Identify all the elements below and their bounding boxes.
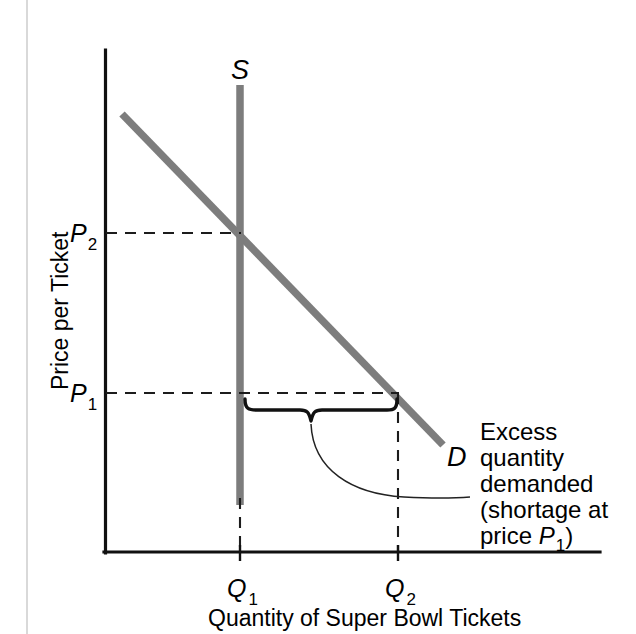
annotation-line-3: demanded <box>480 470 593 497</box>
y-axis-title: Price per Ticket <box>47 231 73 390</box>
supply-curve-label: S <box>231 55 249 85</box>
q2-axis-label: Q2 <box>385 574 416 609</box>
annotation-line-5: price P1) <box>480 522 573 555</box>
p2-axis-label: P2 <box>70 219 97 254</box>
x-axis-title: Quantity of Super Bowl Tickets <box>208 605 521 631</box>
demand-curve <box>122 114 443 445</box>
supply-demand-figure: S D P2 P1 Q1 Q2 Price per Ticket Quantit… <box>0 0 636 634</box>
annotation-line-1: Excess <box>480 418 557 445</box>
annotation-line-2: quantity <box>480 444 564 471</box>
demand-curve-label: D <box>447 442 467 472</box>
annotation-line-4: (shortage at <box>480 496 608 523</box>
q1-axis-label: Q1 <box>227 574 258 609</box>
shortage-brace <box>245 399 397 421</box>
p1-axis-label: P1 <box>70 379 97 414</box>
